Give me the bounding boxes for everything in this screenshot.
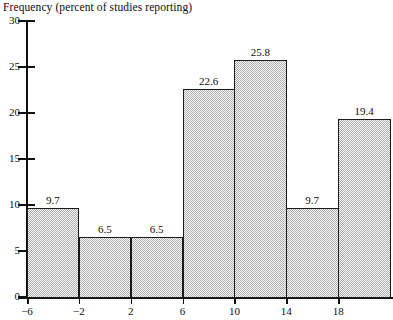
x-axis-tick — [131, 299, 133, 304]
histogram-bar — [286, 208, 338, 298]
x-axis-tick — [338, 299, 340, 304]
x-axis-tick — [286, 299, 288, 304]
x-axis-tick-label: −2 — [62, 305, 96, 317]
x-axis-tick-label: 2 — [114, 305, 148, 317]
x-axis-tick — [27, 299, 29, 304]
x-axis-tick-label: −6 — [10, 305, 44, 317]
bar-value-label: 9.7 — [30, 194, 76, 206]
y-axis-tick-label: 15 — [0, 153, 20, 164]
y-axis-tick — [18, 158, 35, 160]
y-axis-tick-label: 0 — [0, 291, 20, 302]
y-axis-tick-label: 10 — [0, 199, 20, 210]
x-axis-tick — [234, 299, 236, 304]
bar-value-label: 22.6 — [186, 75, 232, 87]
y-axis-tick — [18, 20, 35, 22]
y-axis-tick-label: 5 — [0, 245, 20, 256]
bar-value-label: 9.7 — [289, 194, 335, 206]
bar-value-label: 19.4 — [341, 105, 387, 117]
y-axis-tick-label: 25 — [0, 61, 20, 72]
histogram-bar — [27, 208, 79, 298]
chart-title: Frequency (percent of studies reporting) — [3, 1, 192, 14]
histogram-bar — [79, 237, 131, 298]
histogram-bar — [131, 237, 183, 298]
histogram-bar — [338, 119, 390, 298]
histogram-chart: Frequency (percent of studies reporting)… — [0, 0, 393, 320]
histogram-bar — [234, 60, 286, 298]
y-axis-tick — [18, 66, 35, 68]
histogram-bar — [183, 89, 235, 298]
bar-value-label: 6.5 — [134, 223, 180, 235]
x-axis-tick-label: 18 — [321, 305, 355, 317]
x-axis-tick — [183, 299, 185, 304]
y-axis-tick — [18, 112, 35, 114]
y-axis-tick-label: 30 — [0, 15, 20, 26]
bar-value-label: 6.5 — [82, 223, 128, 235]
y-axis-tick-label: 20 — [0, 107, 20, 118]
x-axis-tick — [79, 299, 81, 304]
x-axis-tick-label: 14 — [269, 305, 303, 317]
x-axis-tick-label: 6 — [166, 305, 200, 317]
bar-value-label: 25.8 — [237, 46, 283, 58]
x-axis-tick-label: 10 — [217, 305, 251, 317]
